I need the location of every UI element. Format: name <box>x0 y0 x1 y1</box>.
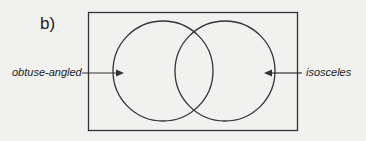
venn-diagram <box>0 0 366 141</box>
circle-isosceles <box>175 21 275 121</box>
circle-obtuse-angled <box>113 21 213 121</box>
arrow-right <box>264 70 302 77</box>
